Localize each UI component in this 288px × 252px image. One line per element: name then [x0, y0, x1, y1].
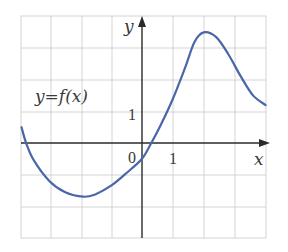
function-curve: [22, 32, 266, 197]
axes: [21, 16, 270, 238]
x-axis-arrow-icon: [259, 139, 270, 147]
grid: [21, 16, 266, 238]
y-axis-arrow-icon: [138, 16, 146, 27]
y-axis-label: y: [123, 16, 134, 36]
function-graph: y x y=f(x) 0 1 1: [0, 0, 288, 252]
y-tick-label: 1: [128, 106, 136, 123]
function-label: y=f(x): [34, 86, 88, 106]
x-tick-label: 1: [169, 150, 177, 167]
x-axis-label: x: [254, 149, 264, 169]
origin-label: 0: [128, 149, 136, 166]
